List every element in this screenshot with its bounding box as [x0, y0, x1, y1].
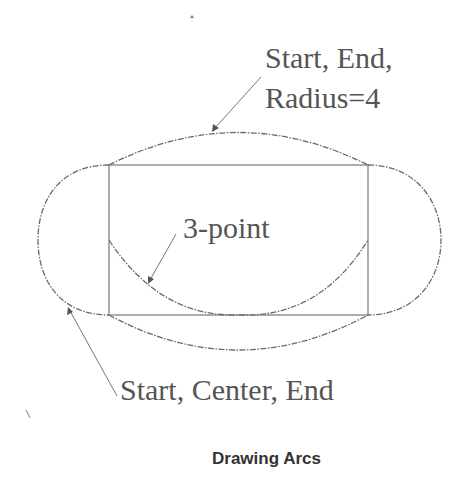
arc-start-end-radius [109, 133, 368, 166]
arrowhead-middle-icon [148, 276, 154, 284]
leader-bottom [70, 311, 117, 396]
arc-3-point [109, 240, 368, 315]
stray-mark-top [190, 15, 194, 18]
label-start-center-end: Start, Center, End [120, 373, 334, 406]
label-radius: Radius=4 [265, 81, 380, 114]
arc-start-center-end [38, 165, 109, 315]
drawing-arcs-diagram: Start, End, Radius=4 3-point Start, Cent… [0, 0, 458, 482]
leader-middle [150, 234, 176, 280]
label-start-end: Start, End, [265, 41, 393, 74]
label-3-point: 3-point [183, 211, 270, 244]
arc-bottom [109, 315, 368, 350]
stray-mark-bottom [26, 410, 30, 418]
caption-text: Drawing Arcs [212, 449, 321, 469]
arc-right [368, 165, 441, 315]
leader-top [214, 77, 261, 129]
